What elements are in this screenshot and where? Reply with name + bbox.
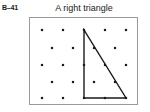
- geoboard-peg: [51, 47, 53, 49]
- geoboard-peg: [41, 64, 43, 66]
- geoboard-peg: [104, 29, 106, 31]
- geoboard-panel: [29, 17, 138, 105]
- geoboard-peg: [41, 29, 43, 31]
- exercise-label: B–41: [2, 3, 18, 12]
- geoboard-figure: B–41 A right triangle: [0, 0, 150, 112]
- geoboard-canvas: [30, 18, 139, 106]
- right-triangle: [84, 30, 126, 98]
- geoboard-peg: [72, 81, 74, 83]
- geoboard-peg: [72, 47, 74, 49]
- geoboard-peg: [62, 64, 64, 66]
- geoboard-peg: [41, 97, 43, 99]
- geoboard-peg: [93, 81, 95, 83]
- geoboard-peg: [51, 81, 53, 83]
- geoboard-peg: [125, 64, 127, 66]
- geoboard-peg: [114, 47, 116, 49]
- geoboard-peg: [62, 29, 64, 31]
- figure-caption: A right triangle: [30, 2, 138, 14]
- shape-layer: [84, 30, 126, 98]
- geoboard-peg: [62, 97, 64, 99]
- geoboard-peg: [125, 29, 127, 31]
